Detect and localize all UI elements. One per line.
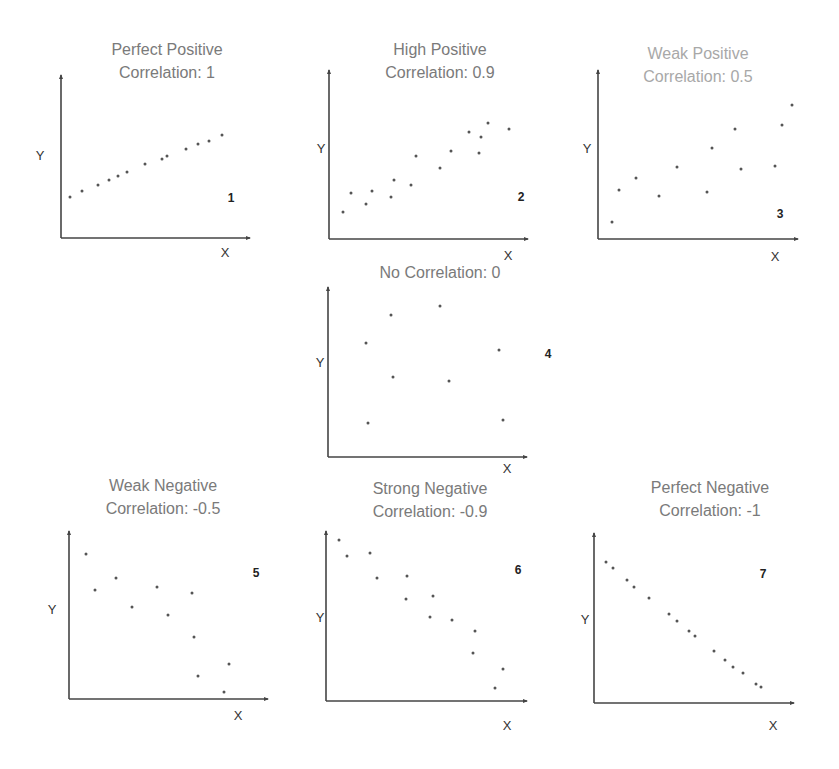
x-axis-label: X	[504, 248, 513, 263]
data-point	[498, 349, 501, 352]
chart-title: Weak NegativeCorrelation: -0.5	[106, 474, 221, 520]
data-point	[612, 567, 615, 570]
data-point	[108, 179, 111, 182]
panel-number: 7	[760, 567, 767, 581]
data-point	[448, 380, 451, 383]
data-point	[468, 131, 471, 134]
data-point	[432, 595, 435, 598]
scatter-panel-5	[67, 530, 269, 701]
data-point	[480, 136, 483, 139]
panel-number: 6	[515, 563, 522, 577]
data-point	[197, 143, 200, 146]
scatter-panel-6	[324, 530, 528, 703]
data-point	[755, 683, 758, 686]
data-point	[474, 630, 477, 633]
y-axis-arrow-icon	[67, 530, 71, 535]
data-point	[429, 616, 432, 619]
data-point	[156, 586, 159, 589]
data-point	[161, 158, 164, 161]
data-point	[472, 652, 475, 655]
data-point	[94, 589, 97, 592]
data-point	[369, 552, 372, 555]
y-axis-label: Y	[48, 602, 57, 617]
data-point	[439, 167, 442, 170]
data-point	[774, 165, 777, 168]
y-axis-label: Y	[317, 141, 326, 156]
data-point	[742, 672, 745, 675]
scatter-panel-7	[592, 532, 795, 705]
data-point	[734, 128, 737, 131]
y-axis-arrow-icon	[59, 74, 63, 79]
data-point	[126, 171, 129, 174]
chart-title-line: Perfect Positive	[111, 38, 222, 61]
data-point	[223, 691, 226, 694]
data-point	[494, 687, 497, 690]
x-axis-arrow-icon	[524, 237, 529, 241]
y-axis-arrow-icon	[596, 69, 600, 74]
data-point	[611, 221, 614, 224]
y-axis-label: Y	[583, 141, 592, 156]
data-point	[487, 122, 490, 125]
data-point	[69, 196, 72, 199]
data-point	[791, 104, 794, 107]
x-axis-arrow-icon	[790, 701, 795, 705]
data-point	[410, 184, 413, 187]
chart-title-line: Weak Negative	[106, 474, 221, 497]
data-point	[390, 196, 393, 199]
x-axis-label: X	[503, 718, 512, 733]
x-axis-label: X	[769, 718, 778, 733]
data-point	[415, 155, 418, 158]
data-point	[193, 636, 196, 639]
data-point	[760, 686, 763, 689]
data-point	[365, 342, 368, 345]
panel-number: 5	[253, 566, 260, 580]
data-point	[338, 539, 341, 542]
data-point	[508, 128, 511, 131]
scatter-panel-4	[326, 286, 528, 459]
y-axis-arrow-icon	[326, 286, 330, 291]
chart-title-line: Strong Negative	[373, 477, 488, 500]
data-point	[166, 155, 169, 158]
chart-title-line: Correlation: 0.9	[385, 61, 494, 84]
x-axis-label: X	[221, 245, 230, 260]
data-point	[221, 134, 224, 137]
data-point	[781, 124, 784, 127]
x-axis-arrow-icon	[523, 699, 528, 703]
chart-title: Perfect PositiveCorrelation: 1	[111, 38, 222, 84]
data-point	[626, 579, 629, 582]
data-point	[367, 422, 370, 425]
data-point	[405, 598, 408, 601]
data-point	[676, 620, 679, 623]
data-point	[392, 376, 395, 379]
y-axis-arrow-icon	[324, 530, 328, 535]
data-point	[131, 606, 134, 609]
x-axis-arrow-icon	[523, 455, 528, 459]
data-point	[724, 659, 727, 662]
x-axis-arrow-icon	[794, 237, 799, 241]
chart-title-line: Correlation: -0.9	[373, 500, 488, 523]
data-point	[478, 152, 481, 155]
chart-title: No Correlation: 0	[380, 261, 501, 284]
data-point	[451, 619, 454, 622]
data-point	[450, 150, 453, 153]
data-point	[185, 148, 188, 151]
data-point	[406, 575, 409, 578]
data-point	[228, 663, 231, 666]
chart-title-line: Perfect Negative	[651, 476, 769, 499]
chart-title: Perfect NegativeCorrelation: -1	[651, 476, 769, 522]
data-point	[732, 666, 735, 669]
data-point	[115, 577, 118, 580]
data-point	[393, 179, 396, 182]
data-point	[365, 203, 368, 206]
data-point	[502, 419, 505, 422]
x-axis-arrow-icon	[246, 236, 251, 240]
data-point	[376, 577, 379, 580]
data-point	[658, 195, 661, 198]
data-point	[688, 630, 691, 633]
chart-title: Strong NegativeCorrelation: -0.9	[373, 477, 488, 523]
data-point	[167, 614, 170, 617]
x-axis-label: X	[234, 708, 243, 723]
data-point	[711, 147, 714, 150]
chart-title: Weak PositiveCorrelation: 0.5	[643, 42, 752, 88]
data-point	[350, 192, 353, 195]
